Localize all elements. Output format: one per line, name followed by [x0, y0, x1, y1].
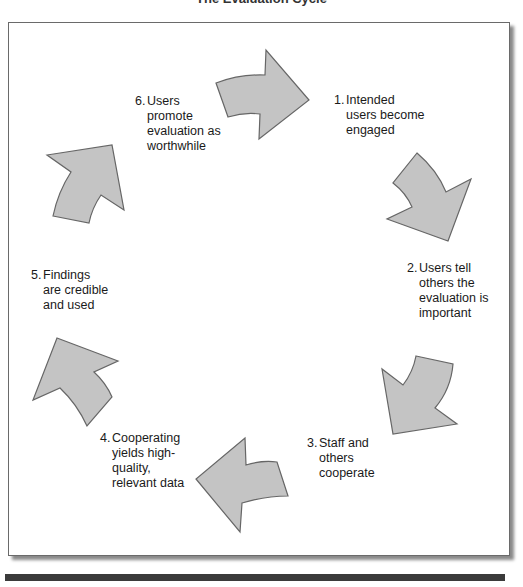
step-4-label: 4. Cooperating yields high- quality, rel…: [100, 431, 210, 491]
step-2-label: 2. Users tell others the evaluation is i…: [407, 261, 517, 321]
arrow-up-left-icon: [33, 338, 118, 426]
arrow-down-left-icon: [382, 356, 457, 434]
step-1-label: 1. Intended users become engaged: [334, 93, 444, 138]
bottom-rule: [5, 574, 505, 581]
step-5-label: 5. Findings are credible and used: [31, 268, 131, 313]
step-3-label: 3. Staff and others cooperate: [307, 436, 407, 481]
arrow-down-right-icon: [387, 153, 471, 241]
arrow-up-right-icon: [47, 145, 124, 223]
step-6-label: 6. Users promote evaluation as worthwhil…: [135, 94, 245, 154]
